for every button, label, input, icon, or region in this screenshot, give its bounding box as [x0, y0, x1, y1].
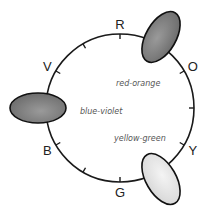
swatch-label-red-orange: red-orange — [116, 79, 160, 88]
hue-label-y: Y — [188, 143, 197, 158]
swatch-blue-violet — [10, 93, 66, 123]
tick-bg — [83, 168, 86, 172]
hue-label-b: B — [43, 143, 52, 158]
tick-v — [56, 71, 60, 74]
hue-label-o: O — [188, 59, 198, 74]
hue-label-r: R — [115, 17, 124, 32]
hue-label-g: G — [115, 185, 125, 200]
tick-rv — [83, 44, 86, 48]
color-wheel-diagram: ROYGBV red-orange blue-violet yellow-gre… — [0, 0, 211, 220]
swatch-label-yellow-green: yellow-green — [113, 134, 166, 143]
swatch-label-blue-violet: blue-violet — [80, 107, 123, 116]
tick-b — [56, 143, 60, 146]
hue-label-v: V — [43, 59, 52, 74]
tick-o — [180, 71, 184, 74]
tick-y — [180, 143, 184, 146]
